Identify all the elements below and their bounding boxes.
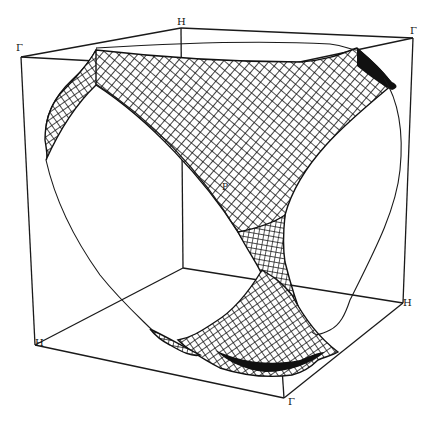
cube-edge [35, 268, 183, 345]
surface-outline-top [96, 42, 357, 50]
cube-edge [181, 28, 413, 38]
label-gamma-bottom-front: Γ [288, 396, 295, 407]
mesh-lower-base [178, 270, 338, 376]
cube-edge [403, 38, 413, 303]
fermi-surface-mesh [45, 42, 401, 376]
label-h-top-back: H [177, 16, 186, 27]
fermi-surface-figure: Γ H Γ H H Γ P [0, 0, 433, 427]
mesh-left-flap [45, 50, 96, 160]
label-h-right-middle: H [403, 297, 412, 308]
surface-outline-left [46, 160, 152, 330]
label-point-p: P [222, 182, 228, 192]
label-gamma-top-right: Γ [410, 25, 417, 36]
cube-edge [21, 57, 35, 345]
label-gamma-top-left: Γ [16, 42, 23, 53]
mesh-upper-sheet [46, 48, 392, 288]
label-h-bottom-left: H [35, 337, 44, 348]
